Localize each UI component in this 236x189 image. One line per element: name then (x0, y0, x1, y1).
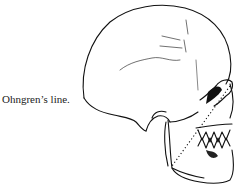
figure-caption: Ohngren’s line. (2, 93, 70, 105)
skull-illustration-icon (80, 0, 236, 189)
